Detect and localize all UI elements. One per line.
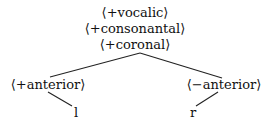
root-feature-consonantal: ⟨+consonantal⟩ (80, 22, 190, 36)
right-feature-anterior: ⟨−anterior⟩ (186, 78, 262, 92)
root-feature-vocalic: ⟨+vocalic⟩ (90, 6, 180, 20)
root-feature-coronal: ⟨+coronal⟩ (90, 38, 180, 52)
leaf-l: l (70, 106, 82, 120)
edge-left-leaf (48, 92, 72, 106)
left-feature-anterior: ⟨+anterior⟩ (4, 78, 92, 92)
edge-right-leaf (196, 92, 218, 106)
edge-root-right (140, 53, 222, 78)
edge-root-left (50, 53, 140, 77)
leaf-r: r (187, 106, 199, 120)
